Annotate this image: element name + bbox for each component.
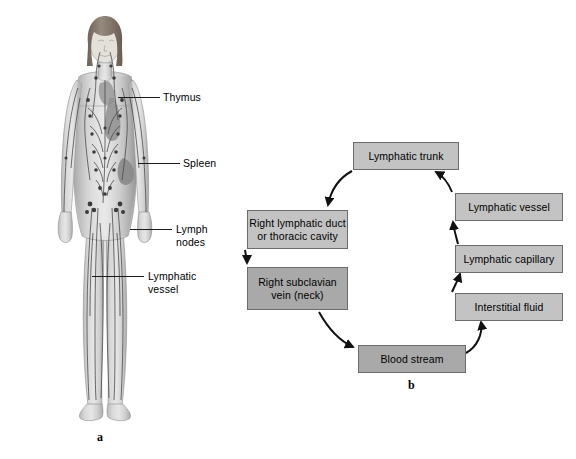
arrow-trunk-to-duct — [328, 171, 352, 205]
leader-line-thymus — [118, 97, 160, 98]
arrow-bloodstream-to-interstitial — [466, 322, 481, 353]
panel-letter-b: b — [408, 378, 415, 393]
arrow-duct-to-subclavian — [245, 250, 247, 263]
panel-b-flowchart: Lymphatic trunk Lymphatic vessel Lymphat… — [240, 0, 576, 459]
arrow-interstitial-to-capillary — [452, 274, 460, 292]
panel-letter-a: a — [97, 430, 103, 445]
arrow-capillary-to-vessel — [453, 222, 458, 244]
flow-box-lymphatic-vessel[interactable]: Lymphatic vessel — [455, 193, 563, 221]
flow-box-right-lymphatic-duct[interactable]: Right lymphatic duct or thoracic cavity — [247, 210, 348, 249]
flow-box-lymphatic-trunk[interactable]: Lymphatic trunk — [353, 142, 459, 170]
panel-a-anatomy: Thymus Spleen Lymph nodes Lymphatic vess… — [0, 0, 240, 459]
label-lymphatic-vessel: Lymphatic vessel — [148, 270, 196, 296]
flow-box-blood-stream[interactable]: Blood stream — [358, 345, 466, 373]
leader-line-spleen — [138, 163, 180, 164]
human-body-lymphatic-system-illustration — [30, 8, 180, 428]
body-silhouette — [58, 16, 152, 421]
arrow-subclavian-to-bloodstream — [319, 312, 353, 347]
arrow-vessel-to-trunk — [436, 172, 452, 192]
label-lymph-nodes: Lymph nodes — [176, 223, 208, 249]
figure-page: Thymus Spleen Lymph nodes Lymphatic vess… — [0, 0, 576, 459]
label-thymus: Thymus — [163, 91, 201, 104]
flow-box-lymphatic-capillary[interactable]: Lymphatic capillary — [455, 245, 563, 273]
leader-line-lymph-nodes — [130, 229, 172, 230]
leader-line-lymphatic-vessel — [92, 276, 144, 277]
flow-box-right-subclavian-vein[interactable]: Right subclavian vein (neck) — [247, 267, 348, 310]
label-spleen: Spleen — [183, 157, 216, 170]
flow-box-interstitial-fluid[interactable]: Interstitial fluid — [455, 293, 563, 321]
